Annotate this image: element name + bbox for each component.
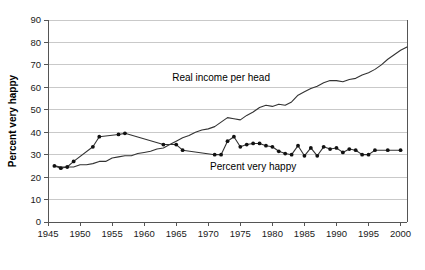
data-point-marker (367, 153, 371, 157)
x-tick-label: 1980 (262, 228, 283, 239)
data-point-marker (354, 148, 358, 152)
data-point-marker (161, 143, 165, 147)
data-point-marker (232, 135, 236, 139)
y-tick-label: 70 (30, 59, 41, 70)
x-tick-label: 1965 (166, 228, 187, 239)
gridlines (48, 20, 407, 200)
x-tick-label: 1955 (102, 228, 123, 239)
data-point-marker (174, 143, 178, 147)
data-point-marker (360, 153, 364, 157)
x-tick-label: 2000 (390, 228, 411, 239)
y-tick-label: 30 (30, 149, 41, 160)
x-tick-label: 1950 (69, 228, 90, 239)
data-point-marker (181, 148, 185, 152)
y-tick-label: 10 (30, 194, 41, 205)
chart-container: 0102030405060708090 19451950195519601965… (0, 0, 425, 270)
x-tick-label: 1960 (134, 228, 155, 239)
series-annotations: Real income per headPercent very happy (172, 72, 296, 173)
data-point-marker (283, 152, 287, 156)
axes (48, 20, 407, 222)
x-tick-label: 1985 (294, 228, 315, 239)
data-point-marker (117, 133, 121, 137)
data-point-marker (245, 143, 249, 147)
data-point-marker (219, 153, 223, 157)
data-point-marker (341, 151, 345, 155)
data-point-marker (399, 148, 403, 152)
y-tick-label: 0 (36, 216, 41, 227)
y-tick-label: 40 (30, 127, 41, 138)
data-point-marker (258, 142, 262, 146)
y-tick-label: 50 (30, 104, 41, 115)
y-tick-label: 80 (30, 37, 41, 48)
data-point-marker (335, 146, 339, 150)
data-point-marker (386, 148, 390, 152)
data-point-marker (277, 149, 281, 153)
data-series (53, 47, 407, 170)
data-point-marker (53, 164, 57, 168)
y-tick-label: 60 (30, 82, 41, 93)
data-point-marker (97, 135, 101, 139)
x-tick-label: 1970 (198, 228, 219, 239)
annotation-label-1: Real income per head (172, 72, 270, 83)
data-point-marker (296, 144, 300, 148)
data-point-marker (238, 145, 242, 149)
data-point-marker (270, 145, 274, 149)
y-tick-label: 90 (30, 14, 41, 25)
x-tick-label: 1945 (37, 228, 58, 239)
data-point-marker (347, 147, 351, 151)
y-axis-title-text: Percent very happy (7, 74, 18, 167)
data-point-marker (328, 147, 332, 151)
data-point-marker (91, 145, 95, 149)
data-point-marker (123, 131, 127, 135)
data-point-marker (65, 165, 69, 169)
data-point-marker (72, 160, 76, 164)
x-tick-label: 1995 (358, 228, 379, 239)
y-axis-title: Percent very happy (7, 74, 18, 167)
y-axis-ticks: 0102030405060708090 (30, 14, 48, 227)
data-point-marker (226, 139, 230, 143)
x-axis-ticks: 1945195019551960196519701975198019851990… (37, 222, 411, 239)
data-point-marker (290, 153, 294, 157)
y-tick-label: 20 (30, 172, 41, 183)
x-tick-label: 1990 (326, 228, 347, 239)
data-point-marker (373, 148, 377, 152)
x-tick-label: 1975 (230, 228, 251, 239)
data-point-marker (315, 154, 319, 158)
data-point-marker (251, 142, 255, 146)
data-point-marker (213, 153, 217, 157)
data-point-marker (59, 166, 63, 170)
line-chart: 0102030405060708090 19451950195519601965… (0, 0, 425, 270)
annotation-label-2: Percent very happy (210, 161, 296, 172)
data-point-marker (309, 146, 313, 150)
data-point-marker (264, 144, 268, 148)
data-point-marker (303, 154, 307, 158)
data-point-marker (322, 145, 326, 149)
